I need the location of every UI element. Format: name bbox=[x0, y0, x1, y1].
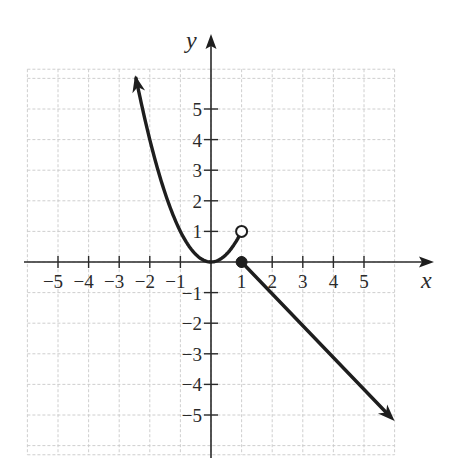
y-tick-label: −5 bbox=[182, 405, 202, 426]
y-tick-label: −2 bbox=[182, 313, 202, 334]
y-tick-label: −3 bbox=[182, 344, 202, 365]
y-tick-label: 5 bbox=[193, 99, 203, 120]
y-tick-label: −1 bbox=[182, 283, 202, 304]
function-graph: x y −5−4−3−2−112345−5−4−3−2−112345 bbox=[0, 0, 460, 476]
x-axis-label: x bbox=[420, 267, 432, 293]
x-tick-label: 5 bbox=[359, 271, 369, 292]
closed-dot-marker bbox=[236, 257, 247, 268]
x-tick-label: 4 bbox=[329, 271, 339, 292]
curves bbox=[132, 75, 394, 421]
x-tick-label: −4 bbox=[73, 271, 94, 292]
x-tick-label: −3 bbox=[104, 271, 124, 292]
open-circle-marker bbox=[236, 226, 247, 237]
x-tick-label: −5 bbox=[43, 271, 63, 292]
x-tick-label: 3 bbox=[298, 271, 308, 292]
y-tick-label: −4 bbox=[182, 374, 203, 395]
y-axis-label: y bbox=[184, 27, 197, 53]
y-tick-label: 4 bbox=[193, 130, 203, 151]
axes: x y bbox=[24, 27, 434, 458]
x-tick-label: −2 bbox=[135, 271, 155, 292]
y-tick-label: 3 bbox=[193, 160, 203, 181]
y-tick-label: 2 bbox=[193, 191, 203, 212]
y-tick-label: 1 bbox=[193, 221, 203, 242]
x-tick-label: 1 bbox=[237, 271, 247, 292]
